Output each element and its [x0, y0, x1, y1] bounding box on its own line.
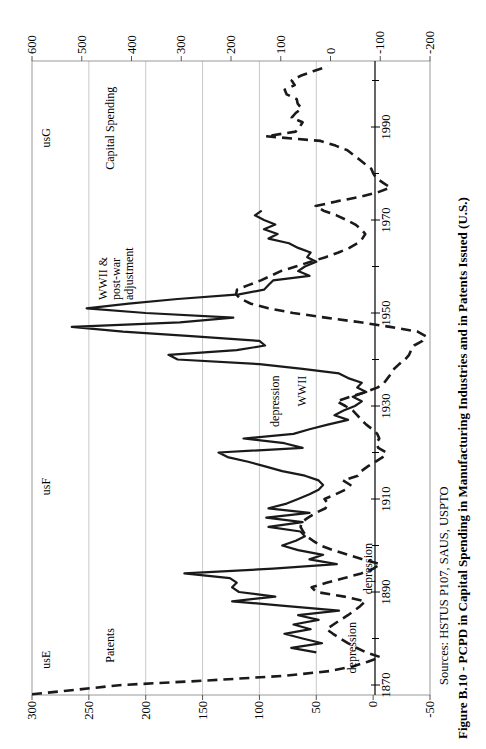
year-tick-label: 1970 — [379, 200, 393, 240]
left-axis-tick-label: 150 — [196, 701, 210, 735]
year-tick-label: 1870 — [379, 665, 393, 705]
annotation-usg: usG — [40, 128, 53, 147]
annotation-depression: depression — [362, 543, 375, 594]
series-patents-line — [32, 67, 426, 695]
annotation-depression: depression — [346, 622, 359, 673]
right-axis-tick-label: 500 — [75, 35, 89, 54]
sources-text: Sources: HSTUS P107, SAUS, USPTO — [437, 487, 452, 685]
right-axis-tick-label: 300 — [174, 35, 188, 54]
annotation-patents: Patents — [104, 628, 117, 663]
year-tick-label: 1890 — [379, 572, 393, 612]
annotation-depression: depression — [269, 376, 282, 427]
right-axis-tick-label: -200 — [423, 31, 437, 54]
annotation-capital-spending: Capital Spending — [104, 87, 117, 170]
left-axis-tick-label: 250 — [82, 701, 96, 735]
right-axis-tick-label: 200 — [224, 35, 238, 54]
left-axis-tick-label: -50 — [423, 701, 437, 735]
year-tick-label: 1930 — [379, 386, 393, 426]
left-axis-tick-label: 100 — [252, 701, 266, 735]
annotation-use: usE — [40, 651, 53, 669]
figure-viewport: 300250200150100500-506005004003002001000… — [0, 0, 486, 749]
annotation-usf: usF — [40, 478, 53, 495]
right-axis-tick-label: 400 — [125, 35, 139, 54]
left-axis-tick-label: 200 — [139, 701, 153, 735]
figure-title: Figure B.10 - PCPD in Capital Spending i… — [455, 197, 471, 739]
right-axis-tick-label: 100 — [274, 35, 288, 54]
plot-border — [32, 61, 430, 695]
right-axis-tick-label: 0 — [324, 48, 338, 54]
year-tick-label: 1950 — [379, 293, 393, 333]
year-tick-label: 1990 — [379, 107, 393, 147]
right-axis-tick-label: -100 — [373, 31, 387, 54]
left-axis-tick-label: 300 — [25, 701, 39, 735]
annotation-wwii-: WWII & post-war adjustment — [97, 247, 136, 300]
left-axis-tick-label: 0 — [366, 701, 380, 735]
right-axis-tick-label: 600 — [25, 35, 39, 54]
rotated-chart-sheet: 300250200150100500-506005004003002001000… — [0, 0, 486, 749]
annotation-wwii: WWII — [296, 376, 309, 407]
plot-area — [0, 0, 486, 749]
left-axis-tick-label: 50 — [309, 701, 323, 735]
year-tick-label: 1910 — [379, 479, 393, 519]
